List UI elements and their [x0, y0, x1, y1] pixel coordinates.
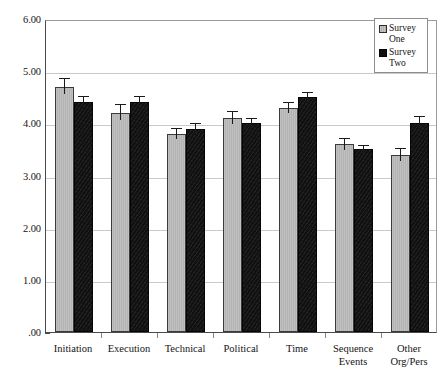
y-axis-tick-label: 5.00 — [1, 67, 41, 78]
bar-survey-one — [223, 118, 242, 332]
error-bar-cap — [227, 111, 238, 112]
legend-label-survey-two: SurveyTwo — [389, 47, 416, 68]
error-bar-cap — [190, 123, 201, 124]
bar-survey-two — [74, 102, 93, 332]
error-bar-cap — [395, 148, 406, 149]
legend-item[interactable]: SurveyOne — [379, 23, 424, 44]
error-bar-line — [120, 104, 121, 119]
legend-swatch-survey-one — [379, 25, 387, 33]
legend-label-survey-one: SurveyOne — [389, 23, 416, 44]
error-bar-cap — [339, 138, 350, 139]
error-bar-line — [288, 102, 289, 113]
error-bar — [246, 118, 257, 129]
bar-survey-two — [242, 123, 261, 332]
bar-group — [270, 21, 326, 332]
x-axis-tick-label: Technical — [157, 343, 213, 356]
x-axis-tick-label: Execution — [101, 343, 157, 356]
error-bar — [339, 138, 350, 149]
bar-survey-two — [410, 123, 429, 332]
error-bar-line — [344, 138, 345, 149]
error-bar-line — [232, 111, 233, 124]
error-bar-line — [419, 116, 420, 130]
bar-survey-one — [335, 144, 354, 332]
bar-survey-two — [186, 129, 205, 332]
error-bar-cap — [302, 92, 313, 93]
error-bar-line — [400, 148, 401, 161]
error-bar-cap — [115, 104, 126, 105]
error-bar — [302, 92, 313, 102]
x-axis-tick-label: OtherOrg/Pers — [381, 343, 437, 368]
bar-survey-one — [167, 134, 186, 332]
error-bar-line — [64, 78, 65, 93]
error-bar-cap — [171, 128, 182, 129]
bar-group — [46, 21, 102, 332]
bar-group — [214, 21, 270, 332]
bar-survey-two — [354, 149, 373, 332]
error-bar — [283, 102, 294, 113]
y-axis-tick-label: 6.00 — [1, 15, 41, 26]
legend-item[interactable]: SurveyTwo — [379, 47, 424, 68]
y-axis-tick-label: 3.00 — [1, 172, 41, 183]
error-bar-line — [83, 96, 84, 109]
error-bar — [358, 145, 369, 155]
x-axis-tick-label: Initiation — [45, 343, 101, 356]
error-bar-line — [251, 118, 252, 129]
error-bar — [414, 116, 425, 130]
legend: SurveyOne SurveyTwo — [374, 18, 428, 73]
error-bar-cap — [78, 96, 89, 97]
bar-survey-one — [55, 87, 74, 332]
error-bar — [134, 96, 145, 109]
error-bar — [190, 123, 201, 134]
error-bar — [115, 104, 126, 119]
error-bar — [171, 128, 182, 139]
error-bar-cap — [134, 96, 145, 97]
y-axis-tick-mark — [45, 333, 50, 334]
bar-group — [102, 21, 158, 332]
error-bar-line — [176, 128, 177, 139]
x-axis-tick-label: Political — [213, 343, 269, 356]
error-bar-cap — [414, 116, 425, 117]
error-bar — [395, 148, 406, 161]
error-bar-cap — [59, 78, 70, 79]
bar-survey-one — [279, 108, 298, 332]
x-axis-tick-label: SequenceEvents — [325, 343, 381, 368]
error-bar-line — [307, 92, 308, 102]
bar-survey-two — [130, 102, 149, 332]
error-bar — [227, 111, 238, 124]
bar-chart: 6.005.004.003.002.001.00.00 InitiationEx… — [0, 0, 447, 381]
bar-survey-one — [111, 113, 130, 332]
error-bar-cap — [283, 102, 294, 103]
y-axis-tick-label: 4.00 — [1, 119, 41, 130]
bar-survey-two — [298, 97, 317, 332]
y-axis-tick-label: .00 — [1, 328, 41, 339]
error-bar-cap — [246, 118, 257, 119]
bar-survey-one — [391, 155, 410, 332]
error-bar-line — [139, 96, 140, 109]
y-axis: 6.005.004.003.002.001.00.00 — [0, 0, 41, 381]
error-bar — [78, 96, 89, 109]
bar-group — [158, 21, 214, 332]
legend-swatch-survey-two — [379, 49, 387, 57]
x-axis: InitiationExecutionTechnicalPoliticalTim… — [45, 337, 437, 381]
error-bar-line — [363, 145, 364, 155]
error-bar-line — [195, 123, 196, 134]
error-bar — [59, 78, 70, 93]
error-bar-cap — [358, 145, 369, 146]
y-axis-tick-label: 1.00 — [1, 276, 41, 287]
x-axis-tick-label: Time — [269, 343, 325, 356]
y-axis-tick-label: 2.00 — [1, 224, 41, 235]
